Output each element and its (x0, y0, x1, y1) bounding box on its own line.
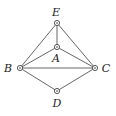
edge-E-C (57, 23, 95, 68)
node-center-C (94, 67, 96, 69)
edge-A-C (57, 47, 95, 68)
node-center-E (56, 22, 58, 24)
node-center-A (56, 46, 58, 48)
label-C: C (102, 62, 111, 75)
label-A: A (51, 52, 60, 65)
graph-diagram: EABCD (0, 0, 116, 116)
edge-B-D (20, 68, 57, 91)
node-center-D (56, 90, 58, 92)
edge-D-C (57, 68, 95, 91)
label-E: E (51, 6, 60, 19)
node-center-B (19, 67, 21, 69)
label-B: B (3, 62, 12, 75)
label-D: D (52, 97, 62, 110)
